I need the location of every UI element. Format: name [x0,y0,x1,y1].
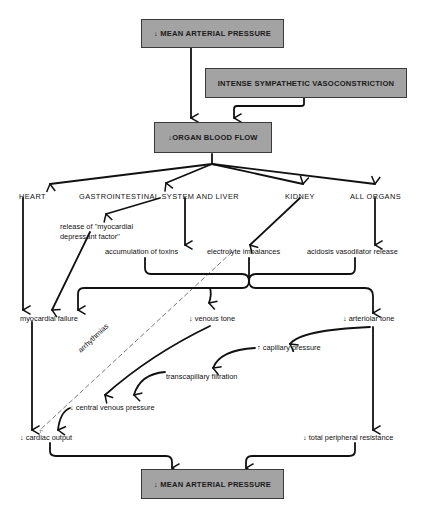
label-venous-tone: ↓ venous tone [189,314,235,323]
arrow-co-to-map [50,443,172,468]
arrow-venous-to-cvp [105,326,210,395]
label-central-venous-pressure: ↓ central venous pressure [70,403,155,412]
label-capillary-pressure: ↑ capillary pressure [257,343,321,352]
label-acidosis-vasodilator-release: acidosis vasodilator release [307,247,398,256]
brace-to-venous [209,288,211,303]
label-accumulation-of-toxins: accumulation of toxins [105,247,178,256]
arrow-sympathetic-to-organ-flow [234,97,304,118]
box-intense-sympathetic-vasoconstriction: INTENSE SYMPATHETIC VASOCONSTRICTION [205,68,407,98]
label-myocardial-failure: myocardial failure [20,314,78,323]
label-gi-system-liver: GASTROINTESTINAL SYSTEM AND LIVER [79,192,239,201]
box-organ-blood-flow: ↓ORGAN BLOOD FLOW [154,122,272,153]
label-arteriolar-tone: ↓ arteriolar tone [343,314,394,323]
arrow-capillary-to-transcapillary [213,348,255,368]
label-heart: HEART [19,192,46,201]
arrow-to-heart [50,154,212,184]
brace-bottom [78,281,249,310]
label-kidney: KIDNEY [285,192,315,201]
arrow-transcapillary-to-cvp [134,372,165,395]
box-bottom-mean-arterial-pressure: ↓ MEAN ARTERIAL PRESSURE [141,469,284,499]
arrow-mdf-to-failure [52,232,90,310]
arrow-kidney-to-electrolyte [250,198,300,245]
label-total-peripheral-resistance: ↓ total peripheral resistance [303,433,393,442]
label-all-organs: ALL ORGANS [350,192,401,201]
brace-top [145,258,355,281]
arrow-tpr-to-map [246,443,355,468]
label-cardiac-output: ↓ cardiac output [20,433,72,442]
label-mdf-release-line2: depressant factor'' [60,232,120,241]
label-transcapillary-filtration: transcapillary filtration [166,372,237,381]
label-mdf-release-line1: release of ''myocardial [60,222,133,231]
brace-to-arteriolar [249,281,373,313]
box-top-mean-arterial-pressure: ↓ MEAN ARTERIAL PRESSURE [141,19,284,48]
label-electrolyte-imbalances: electrolyte imbalances [207,247,280,256]
arrow-arteriolar-to-capillary [290,327,370,344]
